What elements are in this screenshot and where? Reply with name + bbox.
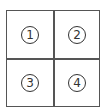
circled-number-2: 2 [68, 26, 86, 44]
circled-number-3: 3 [21, 74, 39, 92]
grid-cell-4: 4 [55, 60, 100, 106]
grid-cell-2: 2 [55, 11, 100, 58]
grid-cell-3: 3 [7, 60, 53, 106]
circled-number-1: 1 [21, 26, 39, 44]
quadrant-grid: 1 2 3 4 [6, 10, 100, 107]
grid-cell-1: 1 [7, 11, 53, 58]
circled-number-4: 4 [68, 74, 86, 92]
